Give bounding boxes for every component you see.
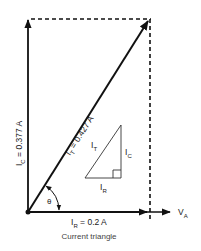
it-value-label: IT = 0.427 A (63, 114, 97, 158)
right-angle-marker (113, 170, 121, 178)
origin-dot (26, 210, 31, 215)
inset-triangle: IT IC IR (85, 125, 132, 194)
current-triangle-diagram: θ IC = 0.377 A IT = 0.427 A IR = 0.2 A V… (0, 0, 201, 251)
theta-label: θ (47, 197, 52, 206)
inset-ir-label: IR (100, 182, 107, 194)
ic-value-label: IC = 0.377 A (14, 120, 26, 166)
inset-ic-label: IC (125, 147, 132, 159)
inset-it-label: IT (91, 140, 97, 152)
figure-caption: Current triangle (61, 232, 117, 241)
ir-value-label: IR = 0.2 A (71, 217, 107, 229)
va-label: VA (178, 207, 188, 219)
